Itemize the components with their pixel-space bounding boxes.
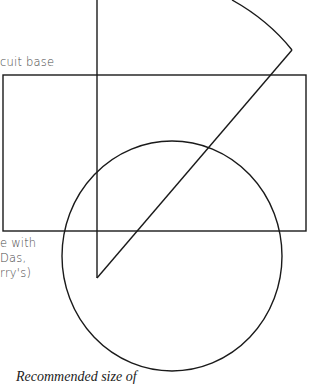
note-line-3: rry's) <box>0 266 31 281</box>
biscuit-base-label: cuit base <box>0 55 54 70</box>
round-base-circle <box>62 141 282 371</box>
note-line-2: Das, <box>0 251 26 266</box>
biscuit-base-rectangle <box>3 75 306 231</box>
wedge-diagonal-edge <box>97 50 292 278</box>
wedge-arc-edge <box>232 0 292 50</box>
note-line-1: e with <box>0 236 36 251</box>
figure-caption: Recommended size of <box>16 369 137 385</box>
